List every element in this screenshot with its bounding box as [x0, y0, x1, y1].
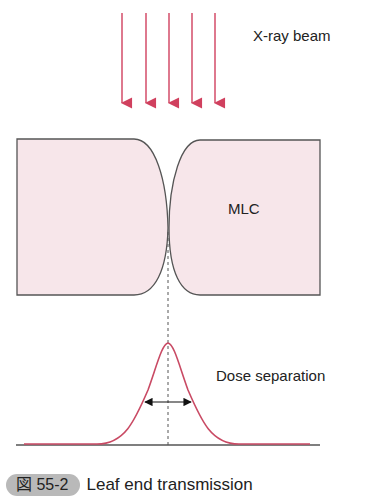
- mlc-label: MLC: [228, 200, 260, 217]
- figure-title: Leaf end transmission: [86, 475, 252, 495]
- dose-separation-label: Dose separation: [216, 367, 325, 384]
- dose-profile-curve: [24, 343, 310, 444]
- figure-caption: 図 55-2 Leaf end transmission: [6, 474, 253, 496]
- xray-beam-label: X-ray beam: [253, 27, 331, 44]
- mlc-leaf-right: [169, 140, 320, 295]
- xray-beam-arrows: [122, 13, 215, 103]
- mlc-leaf-left: [17, 139, 168, 295]
- figure-number-badge: 図 55-2: [6, 474, 80, 496]
- diagram-canvas: [0, 0, 365, 498]
